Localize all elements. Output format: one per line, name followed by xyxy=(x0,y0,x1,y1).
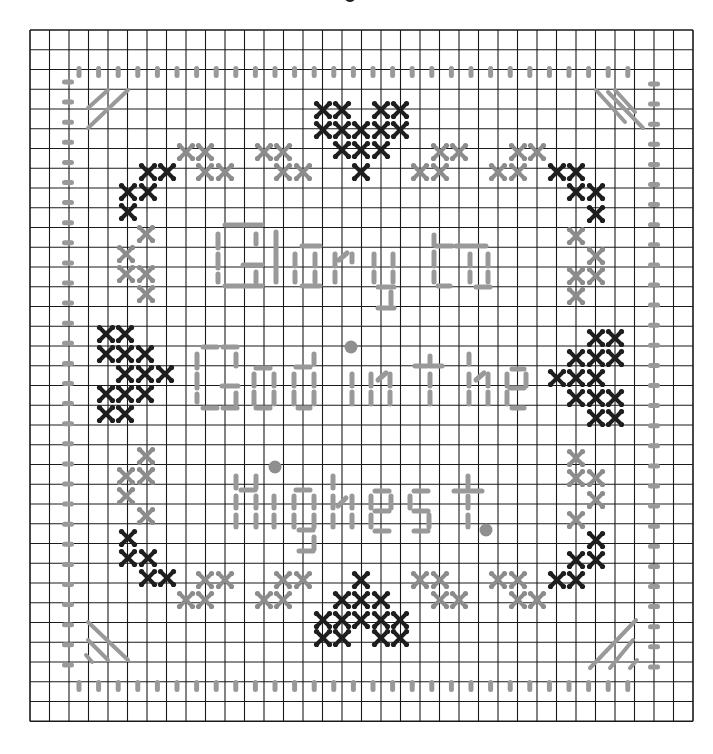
border-stitch xyxy=(62,281,74,286)
dark-cross-stitch xyxy=(139,183,157,201)
border-stitch xyxy=(62,562,74,567)
border-stitch xyxy=(62,341,74,346)
border-stitch xyxy=(371,66,376,78)
border-stitch xyxy=(62,461,74,466)
dark-cross-stitch xyxy=(97,385,115,403)
border-stitch xyxy=(62,100,74,105)
border-stitch xyxy=(273,680,278,692)
dark-cross-stitch xyxy=(97,325,115,343)
border-stitch xyxy=(648,222,660,227)
border-stitch xyxy=(312,680,317,692)
border-stitch xyxy=(648,644,660,649)
border-stitch xyxy=(586,66,591,78)
dark-cross-stitch xyxy=(136,385,154,403)
dark-cross-stitch xyxy=(139,549,157,567)
border-stitch xyxy=(62,441,74,446)
border-stitch xyxy=(410,66,415,78)
cross-stitch-chart xyxy=(0,0,713,754)
letter-backstitch xyxy=(476,373,484,380)
border-stitch xyxy=(62,200,74,205)
border-stitch xyxy=(648,604,660,609)
border-stitch xyxy=(77,680,82,692)
light-cross-stitch xyxy=(137,467,155,485)
border-stitch xyxy=(62,301,74,306)
border-stitch xyxy=(648,102,660,107)
border-stitch xyxy=(155,66,160,78)
border-stitch xyxy=(648,443,660,448)
border-stitch xyxy=(648,564,660,569)
border-stitch xyxy=(648,403,660,408)
dark-cross-stitch xyxy=(139,569,157,587)
border-stitch xyxy=(62,542,74,547)
border-stitch xyxy=(648,584,660,589)
border-stitch xyxy=(62,401,74,406)
corner-backstitch xyxy=(88,640,108,660)
border-stitch xyxy=(62,260,74,265)
border-stitch xyxy=(77,66,82,78)
border-stitch xyxy=(116,680,121,692)
light-cross-stitch xyxy=(137,447,155,465)
border-stitch xyxy=(62,321,74,326)
border-stitch xyxy=(62,642,74,647)
dark-cross-stitch xyxy=(136,345,154,363)
light-cross-stitch xyxy=(117,265,135,283)
border-stitch xyxy=(648,504,660,509)
corner-backstitch xyxy=(86,655,92,662)
border-stitch xyxy=(648,242,660,247)
dark-cross-stitch xyxy=(139,163,157,181)
border-stitch xyxy=(390,66,395,78)
border-stitch xyxy=(648,262,660,267)
light-cross-stitch xyxy=(117,467,135,485)
dark-cross-stitch xyxy=(116,365,134,383)
border-stitch xyxy=(469,66,474,78)
dark-cross-stitch xyxy=(116,385,134,403)
border-stitch xyxy=(547,66,552,78)
dark-cross-stitch xyxy=(116,405,134,423)
border-stitch xyxy=(648,283,660,288)
border-stitch xyxy=(606,680,611,692)
dark-cross-stitch xyxy=(97,345,115,363)
border-stitch xyxy=(62,602,74,607)
border-stitch xyxy=(648,182,660,187)
border-stitch xyxy=(586,680,591,692)
border-stitch xyxy=(648,463,660,468)
border-stitch xyxy=(62,381,74,386)
border-stitch xyxy=(135,680,140,692)
dark-cross-stitch xyxy=(116,325,134,343)
border-stitch xyxy=(62,622,74,627)
dark-cross-stitch xyxy=(116,345,134,363)
border-stitch xyxy=(62,482,74,487)
border-stitch xyxy=(96,680,101,692)
border-stitch xyxy=(62,140,74,145)
light-cross-stitch xyxy=(117,487,135,505)
border-stitch xyxy=(371,680,376,692)
border-stitch xyxy=(116,66,121,78)
border-stitch xyxy=(390,680,395,692)
border-stitch xyxy=(606,66,611,78)
border-stitch xyxy=(527,680,532,692)
border-stitch xyxy=(62,662,74,667)
border-stitch xyxy=(567,680,572,692)
border-stitch xyxy=(567,66,572,78)
border-stitch xyxy=(648,122,660,127)
border-stitch xyxy=(96,66,101,78)
border-stitch xyxy=(253,66,258,78)
light-cross-stitch xyxy=(137,265,155,283)
border-stitch xyxy=(135,66,140,78)
border-stitch xyxy=(273,66,278,78)
corner-backstitch xyxy=(88,90,108,108)
border-stitch xyxy=(488,680,493,692)
border-stitch xyxy=(214,680,219,692)
border-stitch xyxy=(648,624,660,629)
border-stitch xyxy=(194,680,199,692)
border-stitch xyxy=(648,323,660,328)
border-stitch xyxy=(194,66,199,78)
border-stitch xyxy=(292,66,297,78)
border-stitch xyxy=(62,421,74,426)
border-stitch xyxy=(175,680,180,692)
border-stitch xyxy=(233,680,238,692)
border-stitch xyxy=(292,680,297,692)
border-stitch xyxy=(62,180,74,185)
letter-backstitch xyxy=(338,498,346,506)
border-stitch xyxy=(62,522,74,527)
